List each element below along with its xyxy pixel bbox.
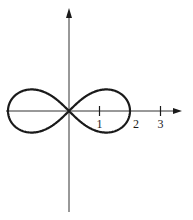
x-axis-arrow-icon — [173, 108, 182, 114]
tick-label-1: 1 — [97, 117, 103, 131]
tick-label-3: 3 — [158, 117, 164, 131]
plot-canvas: 123 — [0, 0, 193, 220]
lemniscate-diagram: 123 — [0, 0, 193, 220]
y-axis-arrow-icon — [66, 8, 72, 18]
tick-label-2: 2 — [133, 117, 139, 131]
